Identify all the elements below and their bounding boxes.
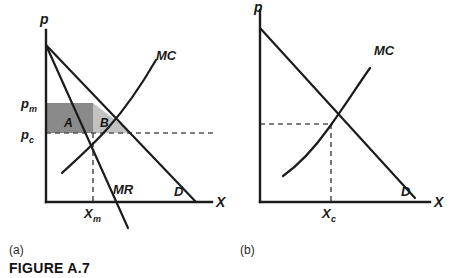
price-label-pm: p m — [20, 96, 37, 114]
mr-curve-label: MR — [113, 182, 134, 197]
mc-curve-label-b: MC — [374, 43, 395, 58]
region-a-label: A — [63, 116, 73, 130]
y-axis-label-a: p — [39, 11, 49, 27]
figure-container: p X MC MR D p m p c X m A B — [0, 0, 456, 278]
panel-a-group: p X MC MR D p m p c X m A B — [20, 11, 227, 228]
demand-curve-label-b: D — [401, 184, 411, 199]
svg-text:m: m — [29, 104, 37, 114]
x-axis-label-a: X — [215, 194, 227, 210]
panel-b-group: p X MC D X c — [253, 0, 445, 224]
panel-tag-b: (b) — [240, 243, 255, 257]
quantity-label-xm: X m — [83, 206, 101, 224]
region-b-label: B — [100, 116, 109, 130]
svg-text:c: c — [29, 135, 34, 145]
economics-figure-svg: p X MC MR D p m p c X m A B — [0, 0, 456, 278]
marginal-cost-curve-b — [283, 68, 370, 176]
svg-text:p: p — [20, 127, 29, 142]
demand-curve-label-a: D — [174, 184, 184, 199]
y-axis-label-b: p — [253, 0, 263, 15]
mc-curve-label-a: MC — [156, 48, 177, 63]
x-axis-label-b: X — [433, 194, 445, 210]
svg-text:c: c — [331, 214, 336, 224]
quantity-label-xc: X c — [321, 206, 336, 224]
svg-text:p: p — [20, 96, 29, 111]
figure-caption: FIGURE A.7 — [9, 260, 90, 276]
panel-tag-a: (a) — [9, 243, 24, 257]
svg-text:m: m — [93, 214, 101, 224]
price-label-pc: p c — [20, 127, 34, 145]
marginal-revenue-curve — [46, 45, 128, 228]
